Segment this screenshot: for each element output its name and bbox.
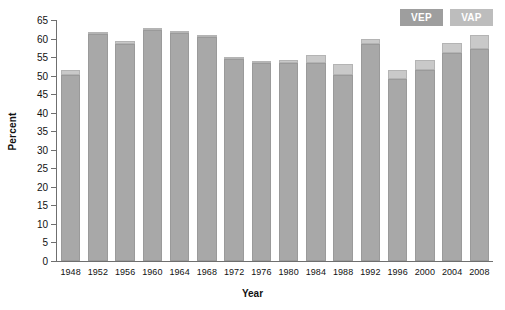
y-axis-tick-label: 0 xyxy=(42,256,48,267)
bar-segment-vap xyxy=(143,30,163,261)
chart-legend: VEPVAP xyxy=(400,9,493,26)
x-axis-tick-label: 1996 xyxy=(388,267,408,277)
bar-segment-vap xyxy=(197,37,217,261)
bar-2008 xyxy=(470,35,490,261)
bar-segment-vep xyxy=(252,61,272,64)
x-axis-tick-label: 1988 xyxy=(333,267,353,277)
x-axis-tick-label: 1972 xyxy=(224,267,244,277)
bar-1956 xyxy=(115,41,135,261)
x-axis-tick-label: 2000 xyxy=(415,267,435,277)
y-axis-tick xyxy=(51,261,57,262)
bar-segment-vep xyxy=(224,57,244,59)
y-axis-tick-label: 10 xyxy=(37,218,48,229)
y-axis-tick-label: 50 xyxy=(37,70,48,81)
bar-segment-vap xyxy=(61,75,81,261)
y-axis-tick-label: 20 xyxy=(37,181,48,192)
y-axis-tick xyxy=(51,150,57,151)
y-axis-tick-label: 45 xyxy=(37,89,48,100)
bar-1948 xyxy=(61,70,81,261)
bar-segment-vap xyxy=(115,44,135,261)
bar-segment-vep xyxy=(279,60,299,63)
y-axis-tick xyxy=(51,113,57,114)
y-axis-title-text: Percent xyxy=(7,112,18,150)
bar-segment-vep xyxy=(333,64,353,75)
bar-1992 xyxy=(361,39,381,261)
x-axis-tick-label: 1960 xyxy=(142,267,162,277)
bar-1984 xyxy=(306,55,326,261)
bar-segment-vap xyxy=(442,53,462,261)
bar-segment-vep xyxy=(88,32,108,34)
legend-item-vap[interactable]: VAP xyxy=(450,9,493,26)
y-axis-tick-label: 55 xyxy=(37,52,48,63)
x-axis-tick-label: 1968 xyxy=(197,267,217,277)
x-axis-tick-label: 1992 xyxy=(360,267,380,277)
y-axis-tick-label: 65 xyxy=(37,15,48,26)
bar-2000 xyxy=(415,60,435,261)
x-axis-tick-label: 1952 xyxy=(88,267,108,277)
bar-1988 xyxy=(333,64,353,261)
bar-1976 xyxy=(252,61,272,261)
bar-segment-vep xyxy=(361,39,381,45)
y-axis-tick xyxy=(51,242,57,243)
plot-area: 05101520253035404550556065 1948195219561… xyxy=(56,20,493,262)
y-axis-tick xyxy=(51,57,57,58)
bar-1972 xyxy=(224,57,244,261)
bar-2004 xyxy=(442,43,462,261)
bar-segment-vap xyxy=(306,63,326,261)
x-axis-title: Year xyxy=(0,288,505,299)
chart-figure: Percent 05101520253035404550556065 19481… xyxy=(0,0,505,310)
y-axis-tick-label: 35 xyxy=(37,126,48,137)
bar-segment-vap xyxy=(388,79,408,261)
bar-segment-vap xyxy=(279,63,299,261)
x-axis-tick-label: 1980 xyxy=(279,267,299,277)
y-axis-tick-label: 25 xyxy=(37,163,48,174)
bar-segment-vep xyxy=(306,55,326,63)
bar-segment-vep xyxy=(388,70,408,78)
legend-item-vep[interactable]: VEP xyxy=(400,9,443,26)
y-axis-title: Percent xyxy=(2,0,22,262)
bar-segment-vap xyxy=(170,33,190,261)
bar-1960 xyxy=(143,28,163,261)
x-axis-tick-label: 1984 xyxy=(306,267,326,277)
bar-segment-vep xyxy=(61,70,81,74)
y-axis-tick-label: 40 xyxy=(37,107,48,118)
bar-segment-vep xyxy=(115,41,135,44)
y-axis-tick xyxy=(51,205,57,206)
y-axis-tick xyxy=(51,76,57,77)
x-axis-tick-label: 1976 xyxy=(251,267,271,277)
x-axis-tick-label: 1956 xyxy=(115,267,135,277)
bar-segment-vep xyxy=(143,28,163,30)
bar-segment-vap xyxy=(361,44,381,261)
y-axis-tick-label: 15 xyxy=(37,200,48,211)
bar-segment-vap xyxy=(470,49,490,261)
bar-segment-vep xyxy=(470,35,490,49)
bar-1964 xyxy=(170,32,190,262)
bar-1980 xyxy=(279,60,299,261)
bar-segment-vep xyxy=(415,60,435,70)
bar-segment-vap xyxy=(415,70,435,261)
y-axis-tick xyxy=(51,131,57,132)
x-axis-tick-label: 1948 xyxy=(61,267,81,277)
y-axis-tick-label: 60 xyxy=(37,33,48,44)
y-axis-tick xyxy=(51,224,57,225)
bar-segment-vep xyxy=(442,43,462,52)
y-axis-tick xyxy=(51,168,57,169)
bar-segment-vap xyxy=(333,75,353,261)
x-axis-tick-label: 2008 xyxy=(469,267,489,277)
y-axis-tick xyxy=(51,20,57,21)
bar-segment-vap xyxy=(224,59,244,261)
y-axis-tick-label: 5 xyxy=(42,237,48,248)
x-axis-tick-label: 2004 xyxy=(442,267,462,277)
x-axis-tick-label: 1964 xyxy=(170,267,190,277)
bar-1952 xyxy=(88,33,108,261)
bar-segment-vap xyxy=(252,63,272,261)
y-axis-tick xyxy=(51,187,57,188)
y-axis-tick xyxy=(51,94,57,95)
bar-1996 xyxy=(388,70,408,261)
y-axis-tick xyxy=(51,39,57,40)
bar-segment-vap xyxy=(88,34,108,261)
y-axis-tick-label: 30 xyxy=(37,144,48,155)
bar-segment-vep xyxy=(170,31,190,33)
bar-1968 xyxy=(197,36,217,261)
bar-segment-vep xyxy=(197,35,217,37)
